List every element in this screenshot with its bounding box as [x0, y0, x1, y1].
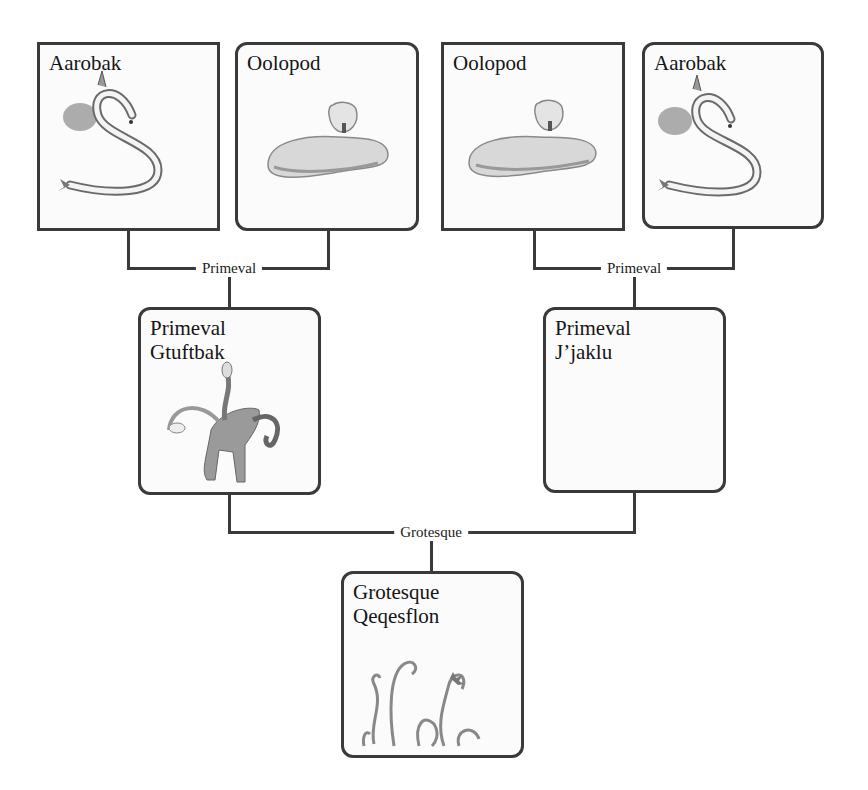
- connector-line: [228, 494, 231, 533]
- creature-name: Primeval J’jaklu: [555, 316, 631, 364]
- breed-label-grotesque: Grotesque: [394, 523, 468, 541]
- creature-card-primeval-jjaklu[interactable]: Primeval J’jaklu: [543, 307, 726, 493]
- connector-line: [533, 230, 536, 269]
- creature-card-aarobak-right[interactable]: Aarobak: [642, 42, 824, 229]
- creature-name: Aarobak: [49, 51, 121, 75]
- creature-name: Grotesque Qeqesflon: [353, 580, 439, 628]
- connector-line: [732, 228, 735, 269]
- creature-card-primeval-gtuftbak[interactable]: Primeval Gtuftbak: [138, 307, 321, 495]
- creature-name: Aarobak: [654, 51, 726, 75]
- connector-line: [633, 492, 636, 533]
- creature-card-grotesque-qeqesflon[interactable]: Grotesque Qeqesflon: [341, 571, 524, 758]
- connector-line: [127, 230, 130, 269]
- creature-name: Oolopod: [247, 51, 321, 75]
- creature-name: Oolopod: [453, 51, 527, 75]
- connector-line: [327, 230, 330, 269]
- creature-card-oolopod-right[interactable]: Oolopod: [441, 42, 625, 231]
- creature-card-oolopod-left[interactable]: Oolopod: [235, 42, 419, 231]
- breed-label-primeval-right: Primeval: [601, 259, 667, 277]
- breed-label-primeval-left: Primeval: [196, 259, 262, 277]
- creature-card-aarobak-left[interactable]: Aarobak: [37, 42, 220, 231]
- creature-name: Primeval Gtuftbak: [150, 316, 226, 364]
